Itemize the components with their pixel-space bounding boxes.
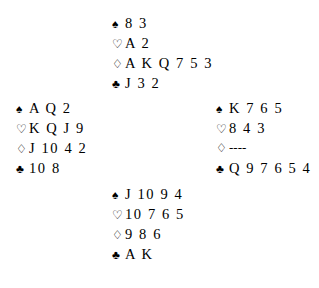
- club-icon: ♣: [112, 74, 124, 94]
- east-club-line: ♣ Q 9 7 6 5 4: [216, 158, 311, 178]
- south-heart-line: ♡ 10 7 6 5: [112, 204, 185, 224]
- south-diamonds: 9 8 6: [125, 224, 162, 244]
- east-clubs: Q 9 7 6 5 4: [229, 158, 311, 178]
- bridge-deal-diagram: ♠ 8 3 ♡ A 2 ♢ A K Q 7 5 3 ♣ J 3 2 ♠ A Q …: [0, 0, 319, 288]
- spade-icon: ♠: [112, 14, 124, 34]
- diamond-icon: ♢: [112, 225, 124, 245]
- north-spades: 8 3: [125, 13, 148, 33]
- west-spade-line: ♠ A Q 2: [16, 98, 87, 118]
- east-spades: K 7 6 5: [229, 98, 283, 118]
- east-spade-line: ♠ K 7 6 5: [216, 98, 311, 118]
- west-diamond-line: ♢ J 10 4 2: [16, 138, 87, 158]
- north-clubs: J 3 2: [125, 73, 160, 93]
- club-icon: ♣: [112, 245, 124, 265]
- south-hearts: 10 7 6 5: [125, 204, 185, 224]
- south-spades: J 10 9 4: [125, 184, 183, 204]
- north-club-line: ♣ J 3 2: [112, 73, 213, 93]
- west-clubs: 10 8: [29, 158, 61, 178]
- north-diamonds: A K Q 7 5 3: [125, 53, 213, 73]
- west-club-line: ♣ 10 8: [16, 158, 87, 178]
- north-spade-line: ♠ 8 3: [112, 13, 213, 33]
- east-diamonds-void: ----: [229, 138, 246, 158]
- hand-south: ♠ J 10 9 4 ♡ 10 7 6 5 ♢ 9 8 6 ♣ A K: [112, 184, 185, 264]
- diamond-icon: ♢: [112, 54, 124, 74]
- hand-east: ♠ K 7 6 5 ♡ 8 4 3 ♢ ---- ♣ Q 9 7 6 5 4: [216, 98, 311, 178]
- south-club-line: ♣ A K: [112, 244, 185, 264]
- north-hearts: A 2: [125, 33, 150, 53]
- heart-icon: ♡: [16, 119, 28, 139]
- diamond-icon: ♢: [216, 138, 228, 158]
- east-heart-line: ♡ 8 4 3: [216, 118, 311, 138]
- hand-north: ♠ 8 3 ♡ A 2 ♢ A K Q 7 5 3 ♣ J 3 2: [112, 13, 213, 93]
- club-icon: ♣: [16, 159, 28, 179]
- west-heart-line: ♡ K Q J 9: [16, 118, 87, 138]
- hand-west: ♠ A Q 2 ♡ K Q J 9 ♢ J 10 4 2 ♣ 10 8: [16, 98, 87, 178]
- heart-icon: ♡: [216, 119, 228, 139]
- west-diamonds: J 10 4 2: [29, 138, 87, 158]
- club-icon: ♣: [216, 159, 228, 179]
- east-hearts: 8 4 3: [229, 118, 266, 138]
- east-diamond-line: ♢ ----: [216, 138, 311, 158]
- spade-icon: ♠: [112, 185, 124, 205]
- spade-icon: ♠: [16, 99, 28, 119]
- diamond-icon: ♢: [16, 139, 28, 159]
- spade-icon: ♠: [216, 99, 228, 119]
- north-heart-line: ♡ A 2: [112, 33, 213, 53]
- south-spade-line: ♠ J 10 9 4: [112, 184, 185, 204]
- west-hearts: K Q J 9: [29, 118, 85, 138]
- heart-icon: ♡: [112, 34, 124, 54]
- south-diamond-line: ♢ 9 8 6: [112, 224, 185, 244]
- west-spades: A Q 2: [29, 98, 72, 118]
- heart-icon: ♡: [112, 205, 124, 225]
- north-diamond-line: ♢ A K Q 7 5 3: [112, 53, 213, 73]
- south-clubs: A K: [125, 244, 154, 264]
